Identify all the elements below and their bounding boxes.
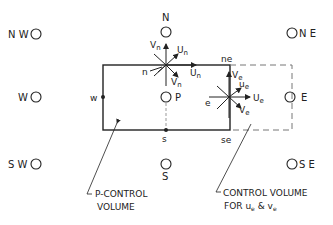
label-ue-right: Ue: [253, 93, 264, 105]
p-control-text-1: P-CONTROL: [95, 189, 147, 199]
label-ue-diag: ue: [239, 79, 249, 91]
label-n: N: [162, 12, 169, 23]
label-nw: N W: [8, 29, 29, 40]
label-e-face: e: [205, 98, 211, 108]
face-w-dot: [101, 95, 105, 99]
face-w-label: w: [90, 93, 97, 103]
node-sw: [31, 159, 41, 169]
label-w: W: [18, 92, 28, 103]
label-un-right: Un: [190, 68, 201, 80]
label-s: S: [162, 171, 168, 182]
label-sw: S W: [8, 159, 28, 170]
label-p: P: [175, 92, 181, 103]
node-se: [287, 159, 297, 169]
face-s-label: s: [162, 134, 167, 144]
face-se-label: se: [221, 135, 232, 145]
label-e: E: [301, 92, 307, 103]
face-ne-label: ne: [221, 54, 233, 64]
cv-text-2: FOR ue & ve: [224, 201, 277, 212]
node-ne: [287, 28, 297, 38]
label-ne: N E: [299, 28, 316, 39]
face-s-dot: [164, 128, 168, 132]
label-vn-diag: Vn: [171, 77, 182, 89]
control-volume-diagram: N W N N E W P E S W S S E w s ne se n Vn…: [0, 0, 333, 225]
label-ve-diag: Ve: [239, 105, 249, 117]
label-vn-up: Vn: [150, 40, 161, 52]
label-un-diag: Un: [177, 45, 188, 57]
node-n: [161, 27, 171, 37]
cv-text-1: CONTROL VOLUME: [223, 188, 308, 198]
label-se: S E: [299, 159, 315, 170]
p-control-leader: [87, 123, 117, 194]
node-s: [161, 159, 171, 169]
p-control-text-2: VOLUME: [97, 202, 135, 212]
node-e: [285, 92, 295, 102]
label-n-face: n: [142, 67, 148, 77]
node-p: [161, 92, 171, 102]
node-nw: [31, 29, 41, 39]
node-w: [31, 92, 41, 102]
